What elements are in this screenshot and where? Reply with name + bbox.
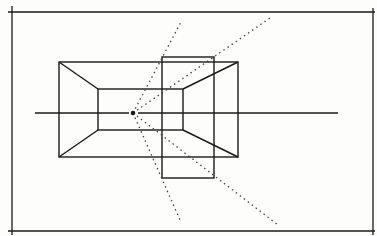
- picture-plane-rectangle: [162, 57, 214, 178]
- diagonal-top-right: [183, 62, 238, 89]
- outer-rect: [59, 62, 238, 157]
- outer-rectangle: [59, 62, 238, 157]
- diagonal-top-left: [59, 62, 98, 89]
- overlay-rect: [162, 57, 214, 178]
- sight-line-3: [133, 113, 180, 220]
- inner-rectangle: [98, 89, 183, 130]
- inner-rect: [98, 89, 183, 130]
- frame: [8, 6, 375, 235]
- sight-line-2: [133, 18, 270, 113]
- sight-lines: [133, 18, 278, 225]
- perspective-diagram: [0, 0, 377, 236]
- eye-point: [131, 111, 136, 116]
- sight-line-1: [133, 20, 182, 113]
- diagonal-bottom-right: [183, 130, 238, 157]
- eye-point-dot: [131, 111, 136, 116]
- corner-diagonals: [59, 62, 238, 157]
- diagonal-bottom-left: [59, 130, 98, 157]
